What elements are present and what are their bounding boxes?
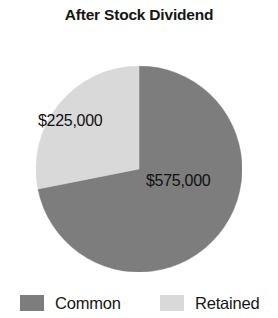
legend-item-retained[interactable]: Retained xyxy=(160,293,259,313)
chart-legend: Common Retained xyxy=(0,292,278,316)
pie-svg xyxy=(36,66,242,272)
chart-title: After Stock Dividend xyxy=(0,5,278,24)
pie-plot-area xyxy=(36,66,242,272)
pie-slice-label-retained: $225,000 xyxy=(38,112,102,130)
legend-item-common[interactable]: Common xyxy=(20,293,121,313)
legend-label-common: Common xyxy=(55,294,121,312)
pie-slices xyxy=(36,66,242,272)
pie-chart-figure: After Stock Dividend $225,000 $575,000 C… xyxy=(0,0,278,318)
pie-slice-label-common: $575,000 xyxy=(146,172,210,190)
legend-swatch-retained xyxy=(160,295,184,311)
legend-swatch-common xyxy=(20,295,44,311)
legend-label-retained: Retained xyxy=(195,294,259,312)
